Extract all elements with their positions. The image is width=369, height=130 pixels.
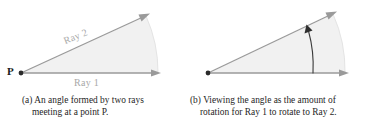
panel-b: P Ray 2 Ray 1	[185, 0, 369, 95]
angle-sector-shading	[21, 16, 158, 73]
caption-b-marker: (b)	[190, 95, 201, 105]
caption-a-line2: meeting at a point P.	[22, 107, 182, 119]
caption-a-line1: An angle formed by two rays	[34, 95, 144, 105]
caption-a-marker: (a)	[22, 95, 32, 105]
caption-b-line2: rotation for Ray 1 to rotate to Ray 2.	[190, 107, 366, 119]
caption-a: (a) An angle formed by two rays meeting …	[22, 95, 182, 118]
caption-b: (b) Viewing the angle as the amount of r…	[190, 95, 366, 118]
vertex-dot	[206, 71, 211, 76]
angle-figure: P Ray 2 Ray 1 P Ray 2 Ray 1 (a)	[0, 0, 369, 130]
angle-sector-shading	[208, 14, 345, 73]
caption-row: (a) An angle formed by two rays meeting …	[0, 95, 369, 130]
caption-b-line1: Viewing the angle as the amount of	[203, 95, 336, 105]
vertex-label-p: P	[7, 66, 14, 77]
vertex-dot	[19, 71, 24, 76]
panel-a: P Ray 2 Ray 1	[0, 0, 185, 95]
ray-1-label: Ray 1	[74, 78, 99, 88]
